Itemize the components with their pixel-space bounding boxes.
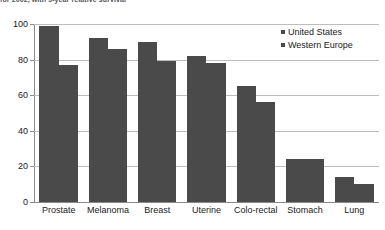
bar-stomach-western-europe (305, 159, 324, 202)
y-tick-label-40: 40 (4, 127, 28, 136)
bar-group (187, 24, 225, 202)
bar-chart: 020406080100 ProstateMelanomaBreastUteri… (0, 9, 385, 230)
y-tick-label-20: 20 (4, 162, 28, 171)
x-category-label-prostate: Prostate (34, 205, 83, 215)
bar-lung-western-europe (354, 184, 373, 202)
x-category-label-breast: Breast (133, 205, 182, 215)
bar-prostate-united-states (39, 26, 58, 202)
y-tick-label-80: 80 (4, 56, 28, 65)
bar-uterine-western-europe (206, 63, 225, 202)
x-category-label-melanoma: Melanoma (83, 205, 132, 215)
legend-item-united-states[interactable]: United States (281, 25, 381, 38)
bar-melanoma-western-europe (108, 49, 127, 202)
bar-melanoma-united-states (89, 38, 108, 202)
y-tick-label-100: 100 (4, 20, 28, 29)
y-tick-label-60: 60 (4, 91, 28, 100)
caption-text: for 2002, with 5-year relative survival (0, 0, 385, 4)
gridline-0 (34, 202, 379, 203)
bar-group (89, 24, 127, 202)
chart-legend: United StatesWestern Europe (281, 25, 381, 51)
bar-group (138, 24, 176, 202)
x-category-label-colo-rectal: Colo-rectal (231, 205, 280, 215)
bar-group (39, 24, 77, 202)
bar-breast-western-europe (157, 61, 176, 202)
bar-prostate-western-europe (59, 65, 78, 202)
bar-lung-united-states (335, 177, 354, 202)
x-category-label-uterine: Uterine (182, 205, 231, 215)
legend-label: Western Europe (288, 40, 353, 50)
y-tick-label-0: 0 (4, 198, 28, 207)
bar-uterine-united-states (187, 56, 206, 202)
bar-breast-united-states (138, 42, 157, 202)
legend-swatch-icon (281, 30, 285, 34)
cropped-caption-strip: for 2002, with 5-year relative survival (0, 0, 385, 9)
legend-swatch-icon (281, 43, 285, 47)
bar-stomach-united-states (286, 159, 305, 202)
x-category-label-stomach: Stomach (280, 205, 329, 215)
bar-group (237, 24, 275, 202)
legend-item-western-europe[interactable]: Western Europe (281, 38, 381, 51)
bar-colo-rectal-western-europe (256, 102, 275, 202)
legend-label: United States (288, 27, 342, 37)
x-category-label-lung: Lung (330, 205, 379, 215)
bar-colo-rectal-united-states (237, 86, 256, 202)
